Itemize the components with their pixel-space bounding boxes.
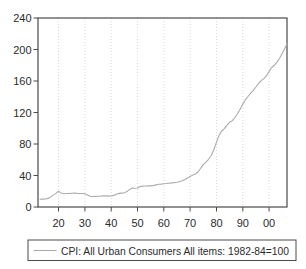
x-tick-label: 70 [184,217,196,229]
y-tick-label: 240 [13,12,31,24]
x-tick-label: 30 [79,217,91,229]
y-tick-label: 120 [13,107,31,119]
x-tick-label: 60 [158,217,170,229]
axes [38,18,287,207]
x-tick-label: 50 [131,217,143,229]
x-tick-label: 40 [105,217,117,229]
legend-label: CPI: All Urban Consumers All items: 1982… [61,245,289,257]
cpi-series-line [40,44,287,199]
y-tick-label: 80 [19,138,31,150]
tick-labels: 20304050607080900004080120160200240 [13,12,275,229]
line-chart: 20304050607080900004080120160200240 CPI:… [0,0,306,269]
legend: CPI: All Urban Consumers All items: 1982… [28,240,296,261]
y-tick-label: 200 [13,44,31,56]
tick-marks [34,18,270,212]
gridlines [59,18,270,207]
plot-border [38,18,287,207]
y-tick-label: 0 [25,201,31,213]
x-tick-label: 20 [52,217,64,229]
cpi-line-chart-figure: 20304050607080900004080120160200240 CPI:… [0,0,306,269]
y-tick-label: 160 [13,75,31,87]
y-tick-label: 40 [19,170,31,182]
x-tick-label: 00 [263,217,275,229]
x-tick-label: 90 [237,217,249,229]
x-tick-label: 80 [210,217,222,229]
